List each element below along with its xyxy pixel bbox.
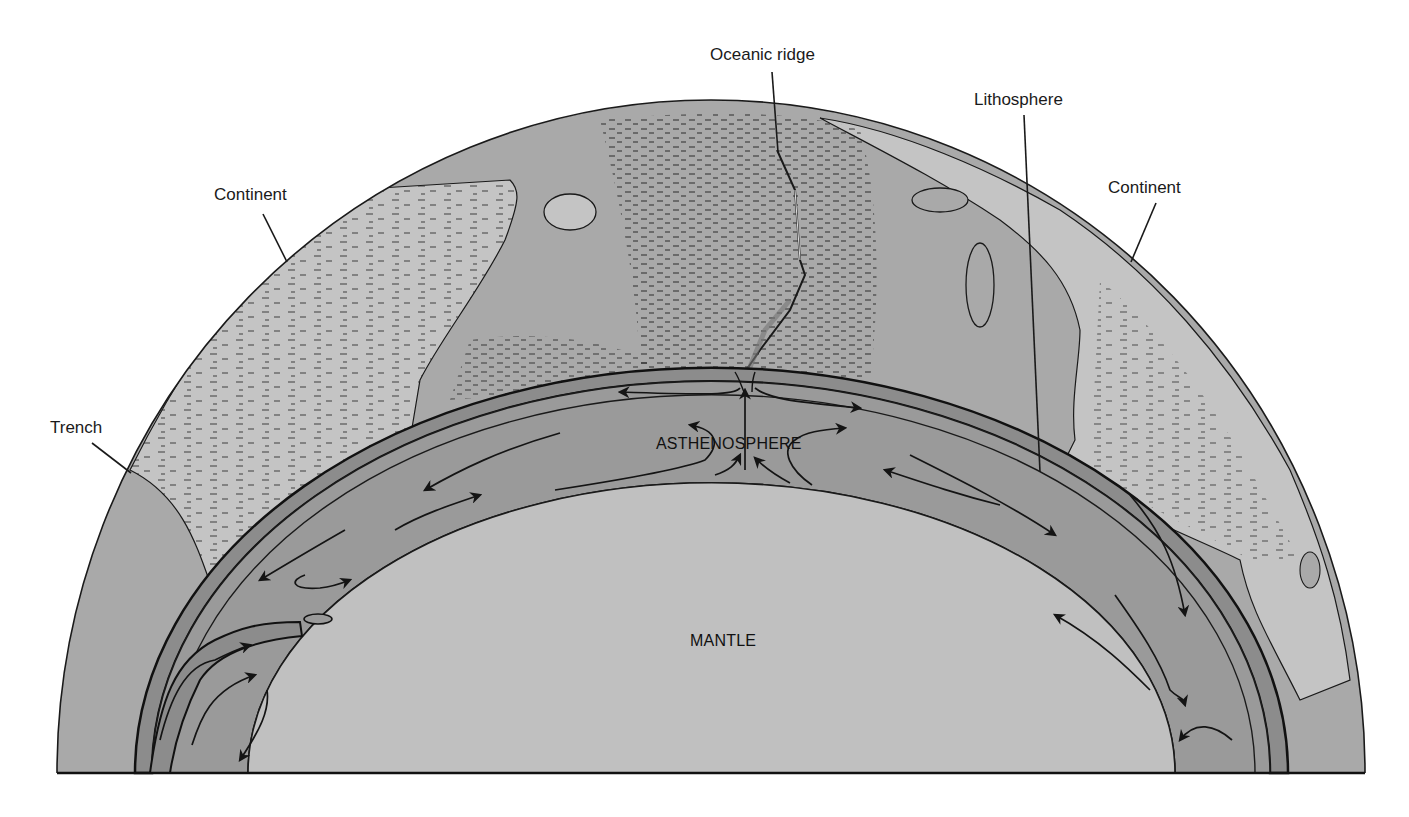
label-lithosphere: Lithosphere	[974, 90, 1063, 110]
label-oceanic-ridge: Oceanic ridge	[710, 45, 815, 65]
label-trench: Trench	[50, 418, 102, 438]
label-continent-left: Continent	[214, 185, 287, 205]
label-mantle: MANTLE	[690, 632, 756, 650]
plate-tectonics-diagram	[0, 0, 1409, 817]
label-continent-right: Continent	[1108, 178, 1181, 198]
label-asthenosphere: ASTHENOSPHERE	[656, 435, 802, 453]
